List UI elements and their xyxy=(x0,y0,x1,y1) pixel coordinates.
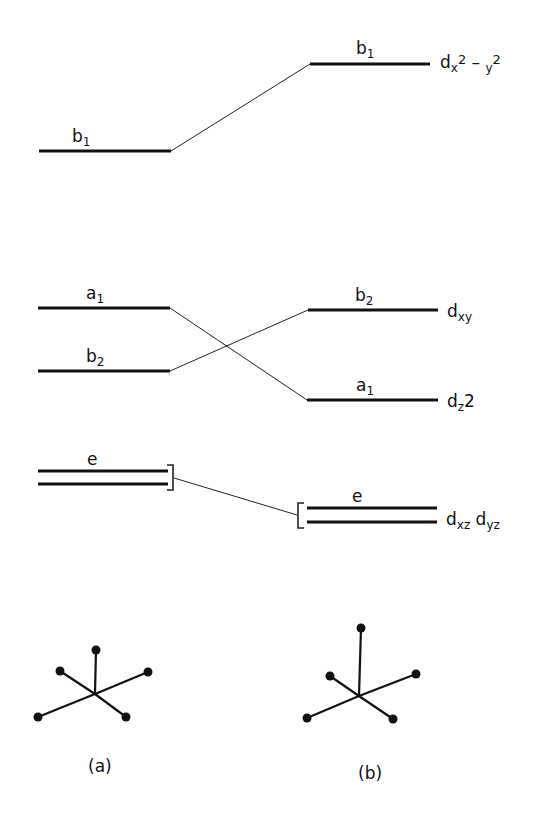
right-e-bracket xyxy=(298,503,304,528)
correlation-diagram xyxy=(0,0,533,822)
right-label-b1: b1 xyxy=(356,40,374,60)
orbital-label-dz2: dz2 xyxy=(447,393,475,410)
caption-a: (a) xyxy=(88,758,112,775)
right-label-b2: b2 xyxy=(355,287,373,307)
correlation-a1 xyxy=(170,308,307,400)
structure-a xyxy=(34,646,153,722)
left-label-b1: b1 xyxy=(72,128,90,148)
structure-b xyxy=(303,624,421,724)
right-label-a1: a1 xyxy=(356,377,374,397)
correlation-b1 xyxy=(171,64,310,151)
left-label-e: e xyxy=(87,451,97,468)
correlation-b2 xyxy=(170,310,308,371)
right-label-e: e xyxy=(352,488,362,505)
orbital-label-dxz-dyz: dxz dyz xyxy=(446,511,500,528)
caption-b: (b) xyxy=(358,765,382,782)
orbital-label-dxy: dxy xyxy=(447,303,472,320)
left-label-b2: b2 xyxy=(86,348,104,368)
left-e-bracket xyxy=(167,465,173,490)
correlation-e xyxy=(174,478,297,515)
left-label-a1: a1 xyxy=(86,285,104,305)
orbital-label-dx2-y2: dx2 – y2 xyxy=(440,54,501,71)
